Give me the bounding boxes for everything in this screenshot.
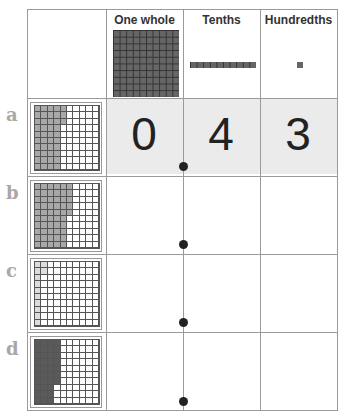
row-label-c: c [6,260,17,281]
hundred-grid-c [34,261,100,327]
place-value-table: One whole Tenths Hundredths 0 4 3 [27,9,338,411]
grid-cell [93,164,99,170]
hundredths-cube-icon [297,62,303,68]
one-whole-block-icon [113,30,179,97]
decimal-line [183,99,184,410]
tenths-rod-icon [190,62,256,68]
decimal-point-icon [179,162,188,171]
header-hundredths: Hundredths [260,13,337,27]
decimal-point-icon [179,240,188,249]
column-divider [106,10,107,410]
hundred-grid-a [34,105,100,171]
decimal-point-icon [179,397,188,406]
hundred-grid-d [34,339,100,405]
grid-cell [93,242,99,248]
column-divider [260,10,261,410]
row-label-a: a [6,104,18,125]
column-divider [260,99,261,174]
row-label-b: b [6,182,19,203]
grid-cell [93,320,99,326]
row-label-d: d [6,338,19,359]
ones-digit-a: 0 [109,107,179,161]
hundred-grid-b [34,183,100,249]
grid-cell [93,398,99,404]
header-one-whole: One whole [106,13,183,27]
header-tenths: Tenths [183,13,260,27]
tenths-digit-a: 4 [186,107,256,161]
hundredths-digit-a: 3 [263,107,333,161]
decimal-point-icon [179,318,188,327]
